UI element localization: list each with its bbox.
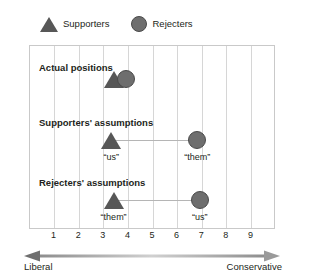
x-tick-label: 9 bbox=[248, 231, 253, 240]
marker-circle-rejecters bbox=[188, 131, 206, 149]
legend-label-rejecters: Rejecters bbox=[152, 19, 192, 29]
x-tick-label: 1 bbox=[51, 231, 56, 240]
triangle-icon bbox=[104, 192, 124, 209]
point-label: “them” bbox=[101, 213, 127, 222]
x-axis-ticks: 123456789 bbox=[29, 231, 275, 243]
marker-triangle-supporters bbox=[101, 132, 121, 149]
x-tick-label: 8 bbox=[223, 231, 228, 240]
legend-label-supporters: Supporters bbox=[63, 19, 109, 29]
x-tick-label: 2 bbox=[76, 231, 81, 240]
gridline bbox=[226, 46, 227, 228]
x-tick-label: 6 bbox=[174, 231, 179, 240]
connector-line bbox=[111, 140, 197, 141]
x-tick-label: 5 bbox=[149, 231, 154, 240]
triangle-icon bbox=[40, 17, 58, 32]
triangle-icon bbox=[101, 132, 121, 149]
x-tick-label: 4 bbox=[125, 231, 130, 240]
gridline bbox=[54, 46, 55, 228]
marker-circle-rejecters bbox=[117, 70, 135, 88]
point-label: “us” bbox=[192, 213, 208, 222]
legend-item-rejecters: Rejecters bbox=[131, 16, 192, 32]
x-tick-label: 7 bbox=[199, 231, 204, 240]
circle-icon bbox=[191, 191, 209, 209]
axis-label-conservative: Conservative bbox=[227, 262, 282, 272]
point-label: “us” bbox=[103, 153, 119, 162]
gridline bbox=[251, 46, 252, 228]
legend-item-supporters: Supporters bbox=[40, 17, 109, 32]
row-label: Rejecters' assumptions bbox=[39, 178, 145, 188]
row-label: Actual positions bbox=[39, 63, 113, 73]
double-arrow-icon bbox=[24, 248, 280, 260]
marker-triangle-supporters bbox=[104, 192, 124, 209]
circle-icon bbox=[188, 131, 206, 149]
circle-icon bbox=[131, 16, 147, 32]
point-label: “them” bbox=[184, 153, 210, 162]
axis-label-liberal: Liberal bbox=[24, 262, 53, 272]
marker-circle-rejecters bbox=[191, 191, 209, 209]
plot-area: Actual positionsSupporters' assumptions“… bbox=[29, 45, 275, 229]
circle-icon bbox=[117, 70, 135, 88]
x-tick-label: 3 bbox=[100, 231, 105, 240]
chart-legend: Supporters Rejecters bbox=[40, 14, 193, 34]
connector-line bbox=[114, 200, 200, 201]
gridline bbox=[79, 46, 80, 228]
axis-end-labels: Liberal Conservative bbox=[24, 262, 282, 276]
row-label: Supporters' assumptions bbox=[39, 118, 153, 128]
